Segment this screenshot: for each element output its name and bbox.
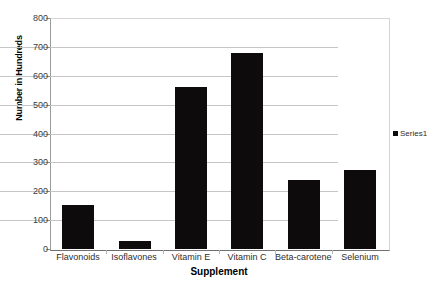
x-tick-label: Vitamin E <box>163 252 219 263</box>
y-tick-label: 600 <box>18 72 48 81</box>
gridline <box>0 47 338 48</box>
gridline <box>0 105 338 106</box>
gridline <box>0 76 338 77</box>
y-tick-label: 700 <box>18 43 48 52</box>
x-tick-separator <box>219 250 220 254</box>
bar <box>231 53 263 249</box>
y-tick-label: 300 <box>18 158 48 167</box>
y-tick-label: 100 <box>18 216 48 225</box>
x-tick-label: Isoflavones <box>106 252 162 263</box>
bar <box>62 205 94 249</box>
y-tick-label: 400 <box>18 130 48 139</box>
gridline <box>0 162 338 163</box>
x-tick-label: Vitamin C <box>219 252 275 263</box>
bar <box>119 241 151 249</box>
x-tick-separator <box>163 250 164 254</box>
chart-title <box>0 0 310 1</box>
bar-chart: Number in Hundreds 010020030040050060070… <box>0 0 445 285</box>
y-tick-label: 200 <box>18 187 48 196</box>
x-tick-separator <box>106 250 107 254</box>
x-tick-separator <box>275 250 276 254</box>
bar <box>175 87 207 249</box>
gridline <box>0 134 338 135</box>
y-tick-label: 0 <box>18 245 48 254</box>
x-tick-label: Selenium <box>332 252 388 263</box>
legend-label-series1: Series1 <box>400 129 427 138</box>
x-axis-title: Supplement <box>50 266 388 277</box>
bar <box>288 180 320 249</box>
chart-legend: Series1 <box>393 129 427 138</box>
bar <box>344 170 376 249</box>
y-tick-label: 500 <box>18 101 48 110</box>
x-tick-separator <box>332 250 333 254</box>
x-tick-label: Flavonoids <box>50 252 106 263</box>
y-tick-label: 800 <box>18 14 48 23</box>
legend-swatch-series1 <box>393 131 398 136</box>
x-tick-label: Beta-carotene <box>275 252 331 263</box>
